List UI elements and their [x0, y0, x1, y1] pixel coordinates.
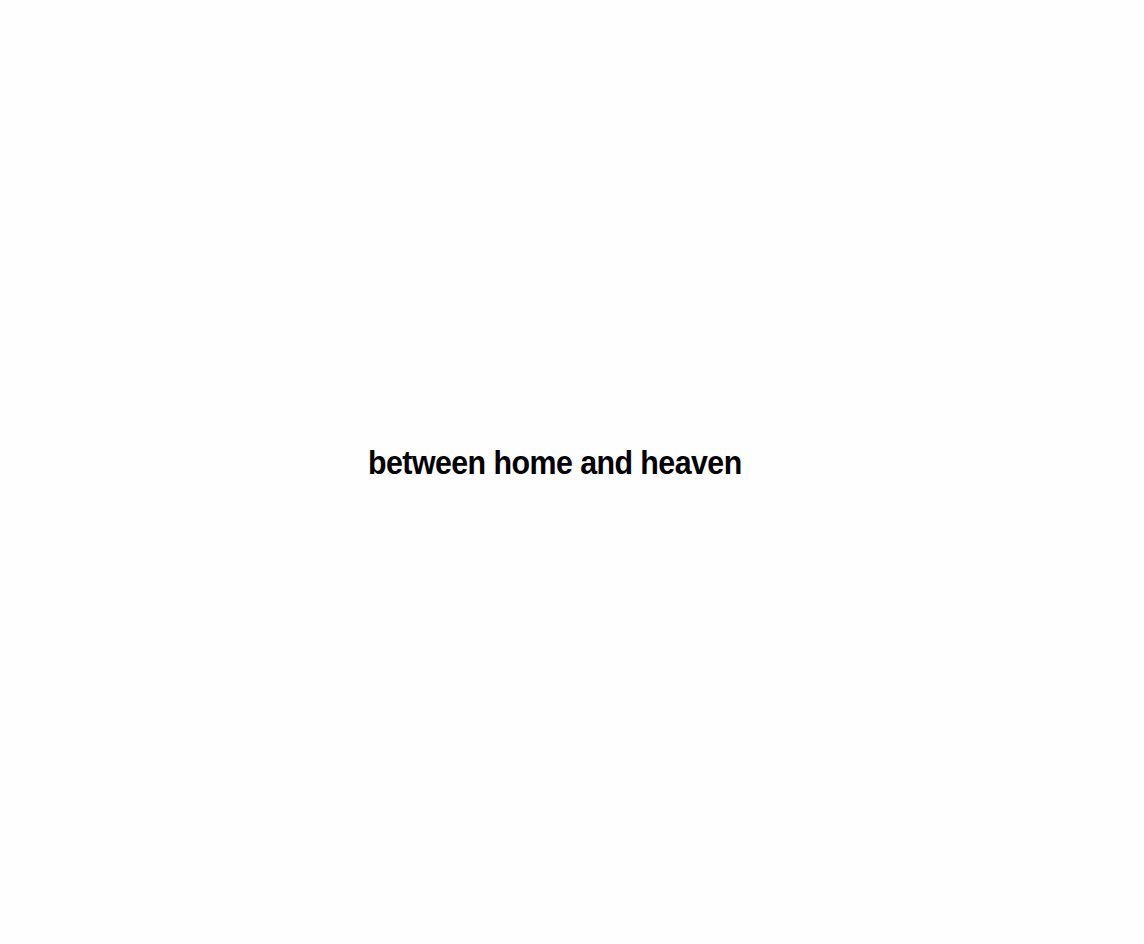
document-page: between home and heaven: [0, 0, 1144, 944]
page-title: between home and heaven: [368, 443, 742, 483]
